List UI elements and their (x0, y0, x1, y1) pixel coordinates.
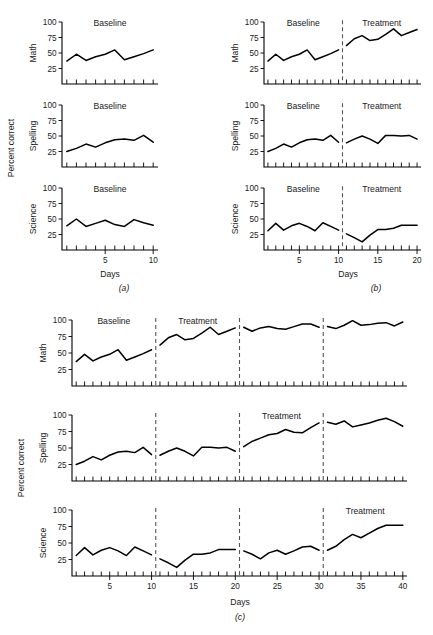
panel-caption: (c) (235, 612, 245, 622)
y-tick-label: 100 (53, 316, 67, 325)
row-label-spelling: Spelling (230, 120, 240, 151)
x-axis-title: Days (230, 597, 250, 607)
x-tick-label: 5 (297, 256, 302, 265)
data-line-spelling (244, 423, 319, 447)
panel-c-svg: 255075100MathBaselineTreatment255075100S… (0, 300, 433, 635)
y-tick-label: 100 (43, 101, 57, 110)
y-tick-label: 100 (53, 506, 67, 515)
y-tick-label: 50 (57, 539, 67, 548)
y-tick-label: 25 (57, 366, 67, 375)
phase-label: Baseline (94, 18, 127, 28)
x-axis-title: Days (338, 269, 358, 279)
data-line-spelling (67, 135, 153, 151)
data-line-math (160, 327, 235, 345)
x-axis-title: Days (100, 269, 120, 279)
panel-a: 255075100MathBaseline255075100SpellingBa… (0, 0, 216, 296)
y-tick-label: 75 (249, 117, 259, 126)
x-tick-label: 10 (334, 256, 344, 265)
phase-label: Baseline (94, 101, 127, 111)
panel-a-row-spelling: 255075100SpellingBaseline (28, 101, 158, 167)
y-tick-label: 50 (47, 132, 57, 141)
y-tick-label: 50 (249, 215, 259, 224)
phase-label: Treatment (362, 184, 401, 194)
y-tick-label: 25 (47, 65, 57, 74)
panel-b-row-science: 2550751005101520ScienceBaselineTreatment (230, 184, 422, 265)
panel-b: 255075100MathBaselineTreatment255075100S… (216, 0, 433, 296)
row-label-spelling: Spelling (28, 120, 38, 151)
data-line-spelling (346, 135, 417, 143)
phase-label: Baseline (94, 184, 127, 194)
x-tick-label: 25 (273, 582, 283, 591)
y-tick-label: 25 (249, 148, 259, 157)
y-axis-title: Percent correct (6, 118, 16, 177)
data-line-science (346, 225, 417, 242)
x-tick-label: 15 (373, 256, 383, 265)
x-tick-label: 5 (103, 256, 108, 265)
y-tick-label: 75 (249, 200, 259, 209)
data-line-science (268, 223, 339, 231)
panel-caption: (b) (371, 283, 382, 293)
panel-a-svg: 255075100MathBaseline255075100SpellingBa… (0, 0, 216, 296)
panel-c-row-math: 255075100MathBaselineTreatment (38, 316, 407, 386)
x-tick-label: 30 (315, 582, 325, 591)
y-tick-label: 50 (249, 49, 259, 58)
data-line-science (76, 547, 151, 556)
y-tick-label: 50 (47, 215, 57, 224)
data-line-science (160, 550, 235, 568)
row-label-science: Science (28, 203, 38, 234)
panel-b-svg: 255075100MathBaselineTreatment255075100S… (216, 0, 433, 296)
phase-label: Treatment (346, 506, 385, 516)
x-tick-label: 10 (149, 256, 159, 265)
data-line-science (67, 219, 153, 226)
panel-a-row-math: 255075100MathBaseline (28, 18, 158, 84)
phase-label: Baseline (287, 184, 320, 194)
x-tick-label: 40 (398, 582, 408, 591)
y-tick-label: 75 (57, 333, 67, 342)
phase-label: Treatment (362, 101, 401, 111)
y-tick-label: 75 (249, 34, 259, 43)
row-label-math: Math (28, 43, 38, 62)
x-tick-label: 35 (356, 582, 366, 591)
y-tick-label: 50 (57, 444, 67, 453)
data-line-science (327, 525, 402, 550)
panel-c: 255075100MathBaselineTreatment255075100S… (0, 300, 433, 635)
data-line-math (67, 50, 153, 61)
y-tick-label: 100 (245, 18, 259, 27)
x-tick-label: 10 (147, 582, 157, 591)
row-label-science: Science (38, 527, 48, 558)
row-label-math: Math (38, 343, 48, 362)
data-line-spelling (268, 135, 339, 151)
y-tick-label: 25 (57, 461, 67, 470)
phase-label: Baseline (287, 101, 320, 111)
phase-label: Baseline (97, 316, 130, 326)
data-line-spelling (160, 447, 235, 456)
panel-b-row-spelling: 255075100SpellingBaselineTreatment (230, 101, 421, 167)
x-tick-label: 20 (231, 582, 241, 591)
y-tick-label: 100 (53, 411, 67, 420)
x-tick-label: 20 (413, 256, 423, 265)
y-tick-label: 100 (43, 184, 57, 193)
phase-label: Treatment (262, 411, 301, 421)
phase-label: Treatment (178, 316, 217, 326)
y-tick-label: 100 (245, 184, 259, 193)
y-tick-label: 50 (47, 49, 57, 58)
panel-a-row-science: 255075100510ScienceBaseline (28, 184, 158, 265)
data-line-math (244, 324, 319, 331)
y-tick-label: 50 (57, 349, 67, 358)
panel-c-row-spelling: 255075100SpellingTreatment (38, 411, 407, 481)
phase-label: Treatment (362, 18, 401, 28)
y-tick-label: 75 (57, 428, 67, 437)
y-tick-label: 25 (249, 231, 259, 240)
y-axis-title: Percent correct (16, 438, 26, 497)
x-tick-label: 5 (107, 582, 112, 591)
data-line-math (76, 350, 151, 362)
y-tick-label: 75 (47, 117, 57, 126)
y-tick-label: 75 (47, 34, 57, 43)
y-tick-label: 100 (245, 101, 259, 110)
data-line-math (327, 321, 402, 329)
panel-caption: (a) (119, 283, 130, 293)
x-tick-label: 15 (189, 582, 199, 591)
y-tick-label: 50 (249, 132, 259, 141)
data-line-science (244, 546, 319, 559)
row-label-science: Science (230, 203, 240, 234)
